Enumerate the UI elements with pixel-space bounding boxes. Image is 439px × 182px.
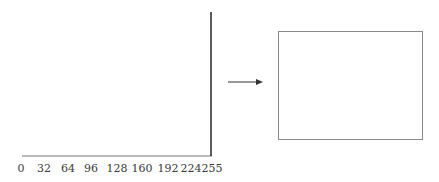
tick-label: 224 [181,162,202,175]
tick-label: 96 [84,162,98,175]
right-arrow-icon [228,79,263,85]
tick-label: 32 [37,162,51,175]
x-tick-labels: 0 32 64 96 128 160 192 224 255 [18,162,223,175]
tick-label: 0 [18,162,25,175]
tick-label: 128 [107,162,128,175]
tick-label: 255 [202,162,223,175]
histogram-diagram: 0 32 64 96 128 160 192 224 255 [0,0,439,182]
tick-label: 192 [158,162,179,175]
blank-image-box [279,32,423,140]
tick-label: 64 [61,162,75,175]
tick-label: 160 [132,162,153,175]
